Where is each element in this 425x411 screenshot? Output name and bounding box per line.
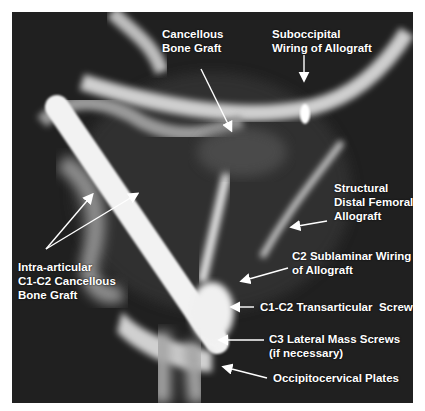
ct-scan-image: Cancellous Bone Graft Suboccipital Wirin… [12, 12, 413, 403]
label-c2-sublaminar-wiring: C2 Sublaminar Wiring of Allograft [292, 249, 411, 277]
label-cancellous-bone-graft: Cancellous Bone Graft [162, 27, 223, 55]
label-occipitocervical-plates: Occipitocervical Plates [273, 371, 399, 385]
label-intra-articular-graft: Intra-articular C1-C2 Cancellous Bone Gr… [18, 260, 116, 302]
label-transarticular-screws: C1-C2 Transarticular Screws [260, 300, 413, 314]
label-structural-allograft: Structural Distal Femoral Allograft [334, 181, 413, 223]
label-lateral-mass-screws: C3 Lateral Mass Screws (if necessary) [269, 332, 400, 360]
label-suboccipital-wiring: Suboccipital Wiring of Allograft [272, 27, 372, 55]
